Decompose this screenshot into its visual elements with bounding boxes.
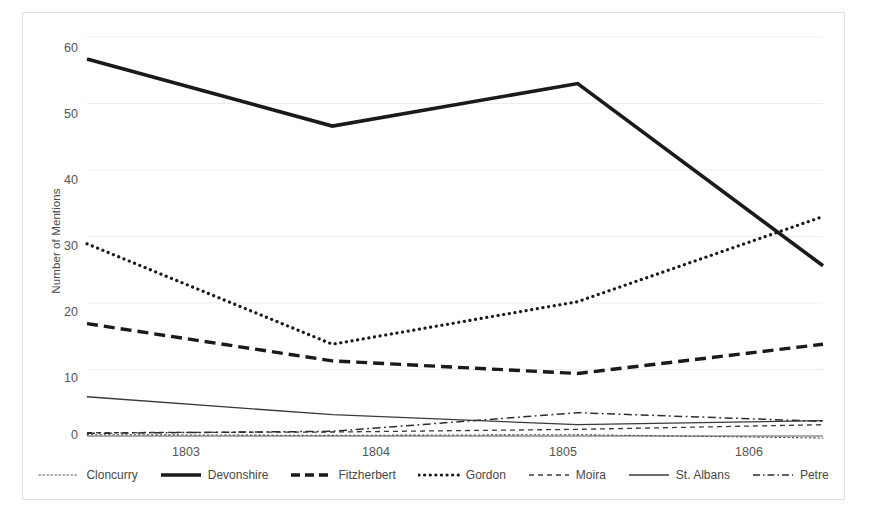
series-line-devonshire bbox=[87, 59, 823, 266]
chart-frame: Number of Mentions 60 50 40 30 20 10 0 1… bbox=[22, 12, 845, 500]
series-line-fitzherbert bbox=[87, 324, 823, 374]
legend-label-gordon: Gordon bbox=[466, 468, 506, 482]
legend-swatch-devonshire bbox=[160, 470, 202, 480]
chart-legend: Cloncurry Devonshire Fitzherbert Gordon … bbox=[23, 468, 844, 482]
legend-item-st-albans[interactable]: St. Albans bbox=[628, 468, 730, 482]
series-line-st-albans bbox=[87, 397, 823, 425]
series-line-gordon bbox=[87, 217, 823, 345]
series-line-moira bbox=[87, 425, 823, 433]
legend-swatch-fitzherbert bbox=[290, 470, 332, 480]
legend-item-cloncurry[interactable]: Cloncurry bbox=[38, 468, 137, 482]
legend-swatch-petre bbox=[752, 470, 794, 480]
legend-label-petre: Petre bbox=[800, 468, 829, 482]
legend-label-fitzherbert: Fitzherbert bbox=[338, 468, 395, 482]
plot-area bbox=[23, 13, 846, 501]
legend-swatch-moira bbox=[528, 470, 570, 480]
legend-item-fitzherbert[interactable]: Fitzherbert bbox=[290, 468, 395, 482]
legend-item-gordon[interactable]: Gordon bbox=[418, 468, 506, 482]
legend-swatch-st-albans bbox=[628, 470, 670, 480]
legend-label-st-albans: St. Albans bbox=[676, 468, 730, 482]
gridlines bbox=[87, 37, 823, 370]
legend-item-moira[interactable]: Moira bbox=[528, 468, 606, 482]
series-lines bbox=[87, 59, 823, 438]
legend-label-cloncurry: Cloncurry bbox=[86, 468, 137, 482]
legend-item-devonshire[interactable]: Devonshire bbox=[160, 468, 269, 482]
legend-item-petre[interactable]: Petre bbox=[752, 468, 829, 482]
legend-label-moira: Moira bbox=[576, 468, 606, 482]
legend-label-devonshire: Devonshire bbox=[208, 468, 269, 482]
legend-swatch-gordon bbox=[418, 470, 460, 480]
legend-swatch-cloncurry bbox=[38, 470, 80, 480]
